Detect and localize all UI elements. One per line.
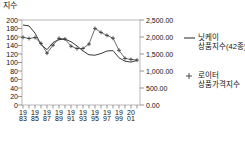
commodity-index-chart: 지수 200 180 160 140 120 100 80 60 40 20 0…: [0, 0, 245, 142]
legend-label-reuters-line1: 로이터: [198, 71, 219, 80]
legend-label-nikkei-line2: 상품지수(42종): [198, 42, 245, 51]
plot-frame: [22, 20, 140, 105]
legend-label-nikkei-line1: 닛케이: [198, 33, 219, 42]
y-axis-ticks: [18, 20, 22, 105]
legend-marker-reuters: [186, 73, 192, 79]
series-markers-reuters: [21, 26, 139, 62]
series-line-reuters: [23, 28, 137, 60]
y2-axis-ticks: [140, 20, 144, 105]
legend-label-reuters-line2: 상품가격지수: [198, 80, 240, 89]
x-axis-ticks: [23, 105, 137, 109]
